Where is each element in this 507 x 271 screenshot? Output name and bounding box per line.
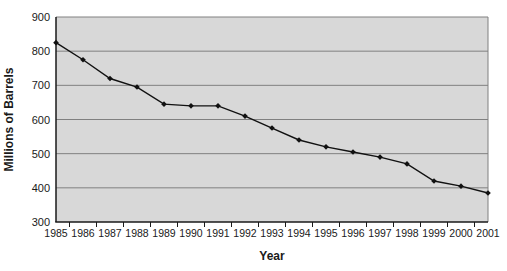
- x-tick-label-1985: 1985: [44, 227, 68, 239]
- y-tick-label-900: 900: [32, 11, 50, 23]
- x-tick-label-2000: 2000: [449, 227, 473, 239]
- x-tick-label-1991: 1991: [206, 227, 230, 239]
- x-tick-label-2001: 2001: [476, 227, 500, 239]
- x-tick-label-1987: 1987: [98, 227, 122, 239]
- x-tick-label-1997: 1997: [368, 227, 392, 239]
- x-tick-label-1994: 1994: [287, 227, 311, 239]
- x-tick-label-1986: 1986: [71, 227, 95, 239]
- line-chart: 3004005006007008009001985198619871988198…: [0, 0, 507, 271]
- x-axis-title: Year: [259, 249, 285, 263]
- x-tick-label-1999: 1999: [422, 227, 446, 239]
- x-tick-label-1996: 1996: [341, 227, 365, 239]
- x-tick-label-1998: 1998: [395, 227, 419, 239]
- y-tick-label-400: 400: [32, 182, 50, 194]
- x-tick-label-1993: 1993: [260, 227, 284, 239]
- y-tick-label-500: 500: [32, 148, 50, 160]
- y-tick-label-800: 800: [32, 45, 50, 57]
- x-tick-label-1992: 1992: [233, 227, 257, 239]
- x-tick-label-1988: 1988: [125, 227, 149, 239]
- x-tick-label-1989: 1989: [152, 227, 176, 239]
- y-tick-label-600: 600: [32, 114, 50, 126]
- line-chart-figure: 3004005006007008009001985198619871988198…: [0, 0, 507, 271]
- y-tick-label-700: 700: [32, 79, 50, 91]
- y-axis-title: Millions of Barrels: [2, 67, 16, 171]
- x-tick-label-1990: 1990: [179, 227, 203, 239]
- x-tick-label-1995: 1995: [314, 227, 338, 239]
